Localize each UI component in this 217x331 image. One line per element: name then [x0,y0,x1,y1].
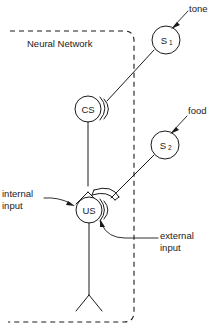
diagram-canvas: CS US S 1 S 2 [0,0,217,331]
annotation-external-input-line2: input [160,242,181,253]
node-cs-label: CS [81,104,94,115]
node-s2-label: S [160,140,166,151]
annotation-internal-input: internalinput [2,188,33,211]
arrow-line-internal-input [44,198,70,203]
axon-us-branch-left [76,295,89,311]
annotation-internal-input-line1: internal [2,188,33,199]
neural-network-boundary [8,31,134,322]
node-s1-label: S [161,35,167,46]
axon-s1-to-cs [107,50,154,101]
neural-network-diagram: CS US S 1 S 2 [0,0,217,331]
arrow-head-tone [171,22,180,29]
node-us-label: US [82,205,95,216]
annotation-external-input-line1: external [160,230,194,241]
axon-us-branch-right [89,295,102,311]
annotation-tone: tone [189,3,208,15]
synapse-us-terminal-outer [94,188,119,197]
node-s2-subscript: 2 [168,144,172,151]
arrow-line-external-input [102,225,158,238]
synapse-us-terminal-edge-right [115,197,119,200]
annotation-external-input: externalinput [160,230,194,253]
annotation-food: food [188,105,207,117]
annotation-internal-input-line2: input [2,200,23,211]
arrow-head-food [170,127,179,134]
node-s1-subscript: 1 [169,39,173,46]
neural-network-label: Neural Network [27,38,92,50]
axon-s2-to-us [111,155,154,198]
